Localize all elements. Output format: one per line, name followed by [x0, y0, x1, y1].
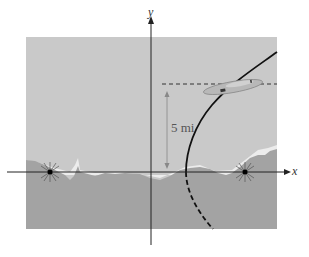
hyperbola-diagram [0, 0, 309, 257]
x-axis-arrow [284, 169, 291, 175]
x-axis-label: x [292, 164, 297, 179]
distance-label: 5 mi [171, 120, 194, 136]
y-axis-label: y [148, 5, 153, 20]
